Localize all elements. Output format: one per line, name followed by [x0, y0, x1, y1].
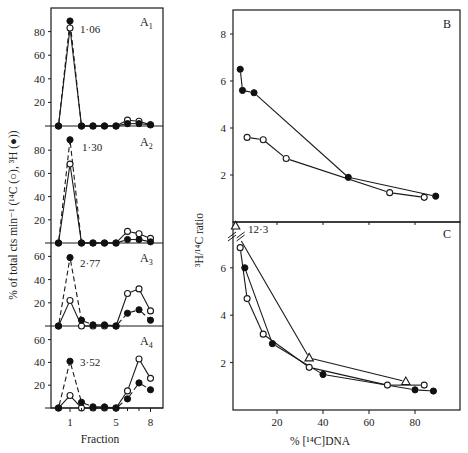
filled-circle-marker	[113, 240, 119, 246]
filled-circle-marker	[55, 323, 61, 329]
open-circle-marker	[125, 228, 131, 234]
y-tick-label: 60	[34, 250, 46, 262]
y-tick-label: 40	[34, 356, 46, 368]
filled-circle-marker	[67, 358, 73, 364]
filled-circle-marker	[237, 66, 243, 72]
series-line	[241, 241, 307, 355]
axis-break-mark	[228, 235, 236, 241]
series-line	[70, 24, 81, 123]
open-circle-marker	[148, 375, 154, 381]
series-line	[70, 167, 81, 240]
open-circle-marker	[67, 297, 73, 303]
panel-label-c: C	[443, 227, 451, 241]
filled-circle-marker	[239, 87, 245, 93]
y-tick-label: 4	[221, 122, 227, 134]
series-line	[70, 31, 81, 123]
panel-label-a4: A4	[140, 334, 153, 350]
open-circle-marker	[421, 382, 427, 388]
open-circle-marker	[125, 291, 131, 297]
open-circle-marker	[237, 245, 243, 251]
series-line	[84, 321, 90, 323]
y-tick-label: 80	[34, 26, 46, 38]
series-line	[142, 240, 147, 241]
left-frame	[51, 8, 163, 408]
series-line	[108, 407, 113, 408]
filled-circle-marker	[124, 396, 130, 402]
series-line	[59, 364, 69, 405]
open-circle-marker	[125, 388, 131, 394]
series-line	[131, 311, 136, 313]
y-tick-label: 20	[34, 214, 46, 226]
series-line	[246, 91, 251, 92]
filled-circle-marker	[55, 123, 61, 129]
open-circle-marker	[387, 190, 393, 196]
filled-circle-marker	[67, 18, 73, 24]
filled-circle-marker	[345, 174, 351, 180]
x-tick-label: 20	[272, 416, 284, 428]
series-line	[142, 385, 148, 389]
x-tick-label: 60	[364, 416, 376, 428]
open-circle-marker	[136, 356, 142, 362]
open-circle-marker	[384, 382, 390, 388]
y-tick-label: 6	[221, 75, 227, 87]
axis-break-mark	[228, 232, 236, 238]
open-circle-marker	[283, 156, 289, 162]
series-line	[142, 124, 147, 125]
y-tick-label: 60	[34, 49, 46, 61]
filled-circle-marker	[67, 254, 73, 260]
series-line	[119, 240, 124, 242]
filled-circle-marker	[136, 380, 142, 386]
series-line	[130, 290, 136, 292]
filled-circle-marker	[55, 405, 61, 411]
annotation-a2: 1·30	[82, 141, 103, 153]
filled-circle-marker	[147, 122, 153, 128]
y-tick-label: 40	[34, 73, 46, 85]
panel-label-a1: A1	[140, 15, 153, 31]
y-tick-label: 80	[34, 144, 46, 156]
annotation-c-offscale: 12·3	[248, 223, 269, 235]
open-circle-marker	[260, 331, 266, 337]
filled-circle-marker	[320, 371, 326, 377]
filled-circle-marker	[101, 240, 107, 246]
open-circle-marker	[306, 364, 312, 370]
annotation-a3: 2·77	[80, 257, 101, 269]
filled-circle-marker	[251, 90, 257, 96]
series-line	[142, 235, 148, 237]
filled-circle-marker	[90, 240, 96, 246]
series-line	[141, 362, 149, 376]
right-y-axis-label: ³H/¹⁴C ratio	[193, 213, 205, 267]
filled-circle-marker	[101, 322, 107, 328]
panel-a2: 20406080	[34, 137, 163, 246]
filled-circle-marker	[147, 317, 153, 323]
filled-circle-marker	[78, 123, 84, 129]
filled-circle-marker	[78, 317, 84, 323]
y-tick-label: 6	[221, 262, 227, 274]
series-line	[59, 143, 70, 240]
filled-circle-marker	[124, 121, 130, 127]
open-circle-marker	[67, 392, 73, 398]
filled-circle-marker	[90, 322, 96, 328]
right-panels-ratio-vs-dna: 246824620406080	[221, 10, 461, 428]
left-x-axis-label: Fraction	[81, 433, 120, 445]
triangle-marker	[305, 353, 313, 361]
series-line	[326, 375, 411, 389]
annotation-a4: 3·52	[80, 356, 100, 368]
left-y-axis-label: % of total cts min⁻¹ (¹⁴C (○), ³H (●))	[7, 130, 20, 300]
series-line	[70, 143, 81, 240]
y-tick-label: 20	[34, 297, 46, 309]
panel-b-frame	[233, 10, 460, 222]
x-tick-label: 40	[318, 416, 330, 428]
series-line	[249, 302, 262, 331]
y-tick-label: 60	[34, 167, 46, 179]
y-tick-label: 60	[34, 334, 46, 346]
filled-circle-marker	[269, 341, 275, 347]
series-line	[71, 261, 81, 317]
x-tick-label: 5	[113, 416, 119, 428]
filled-circle-marker	[55, 240, 61, 246]
series-line	[141, 312, 148, 318]
filled-circle-marker	[136, 121, 142, 127]
filled-circle-marker	[147, 239, 153, 245]
filled-circle-marker	[78, 240, 84, 246]
series-line	[418, 390, 429, 391]
y-tick-label: 40	[34, 191, 46, 203]
